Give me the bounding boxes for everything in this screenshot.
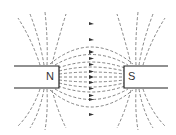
field-lines-svg xyxy=(0,0,176,135)
north-pole-label: N xyxy=(46,70,54,82)
arrow-icons xyxy=(89,22,94,116)
south-pole-label: S xyxy=(128,70,135,82)
